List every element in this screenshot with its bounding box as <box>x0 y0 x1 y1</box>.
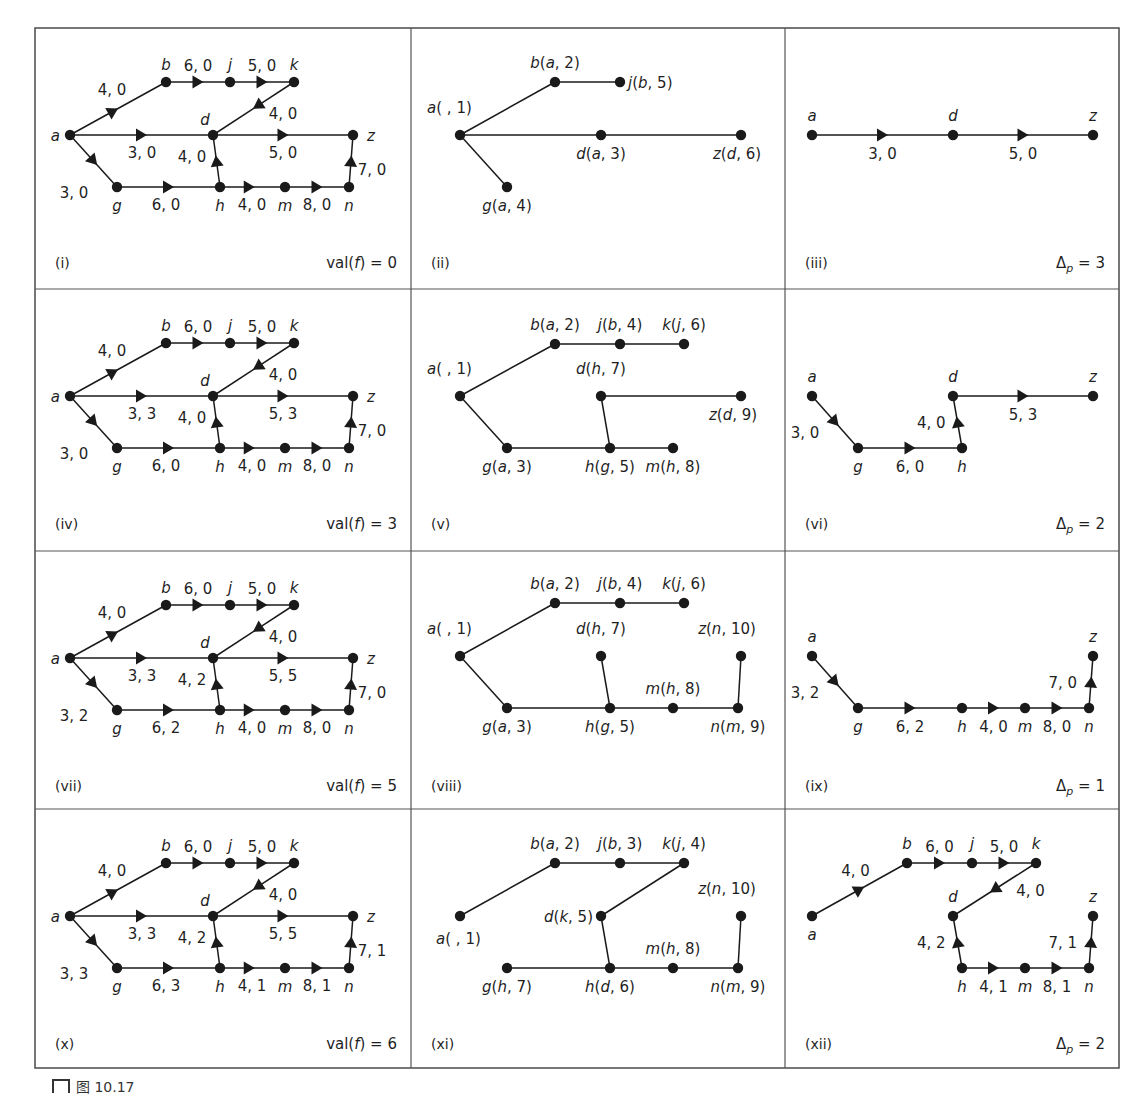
edge-line <box>460 82 555 135</box>
edge-line <box>460 344 555 396</box>
delta-p: Δp = 1 <box>1056 777 1105 798</box>
edge-line <box>738 916 741 968</box>
vertex-dot <box>280 182 290 192</box>
edge-label-hm: 4, 0 <box>238 457 267 475</box>
vertex-label-m: m <box>278 978 293 996</box>
vertex-dot <box>348 653 358 663</box>
vertex-dot <box>65 130 75 140</box>
vertex-dot <box>112 182 122 192</box>
vertex-dot <box>280 443 290 453</box>
edge-label-mn: 8, 1 <box>303 977 332 995</box>
vertex-label: z(d, 6) <box>712 145 761 163</box>
vertex-dot <box>948 911 958 921</box>
edge-label-gh: 6, 2 <box>152 719 181 737</box>
arrowhead-icon <box>278 652 289 665</box>
edge-label-ag: 3, 0 <box>791 424 820 442</box>
arrowhead-icon <box>344 679 357 690</box>
vertex-label: h(g, 5) <box>585 458 635 476</box>
arrowhead-icon <box>278 129 289 142</box>
vertex-dot <box>957 703 967 713</box>
edge-label-ad: 3, 0 <box>868 145 897 163</box>
arrowhead-icon <box>193 857 204 870</box>
edge-label-ab: 4, 0 <box>98 862 127 880</box>
edge-label-jk: 5, 0 <box>248 838 277 856</box>
vertex-label-g: g <box>112 458 122 476</box>
vertex-dot <box>215 182 225 192</box>
edge-label-jk: 5, 0 <box>248 580 277 598</box>
arrowhead-icon <box>988 702 999 715</box>
vertex-dot <box>1031 858 1041 868</box>
vertex-label: a( , 1) <box>427 620 472 638</box>
vertex-label: h(g, 5) <box>585 718 635 736</box>
edge-label-hm: 4, 0 <box>979 718 1008 736</box>
edge-label-hm: 4, 1 <box>979 978 1008 996</box>
arrowhead-icon <box>136 129 147 142</box>
vertex-label: j(b, 5) <box>626 74 673 92</box>
panel-id: (viii) <box>431 778 462 794</box>
arrowhead-icon <box>1084 937 1097 948</box>
panel-id: (vi) <box>805 516 828 532</box>
arrowhead-icon <box>253 358 266 369</box>
edge-label-hd: 4, 2 <box>178 929 207 947</box>
arrowhead-icon <box>1052 702 1063 715</box>
edge-label-bj: 6, 0 <box>184 57 213 75</box>
panel-id: (x) <box>55 1036 74 1052</box>
vertex-label-a: a <box>51 908 60 926</box>
vertex-dot <box>736 651 746 661</box>
vertex-dot <box>550 339 560 349</box>
vertex-dot <box>733 963 743 973</box>
arrowhead-icon <box>244 962 255 975</box>
edge-label-ag: 3, 0 <box>60 184 89 202</box>
vertex-dot <box>736 911 746 921</box>
vertex-dot <box>289 858 299 868</box>
flow-value: val(f) = 6 <box>326 1035 397 1053</box>
arrowhead-icon <box>344 156 357 167</box>
vertex-dot <box>668 443 678 453</box>
edge-label-nz: 7, 1 <box>358 942 387 960</box>
vertex-label-k: k <box>290 837 300 855</box>
arrowhead-icon <box>999 857 1010 870</box>
arrowhead-icon <box>344 417 357 428</box>
vertex-dot <box>1020 963 1030 973</box>
vertex-dot <box>615 858 625 868</box>
arrowhead-icon <box>988 962 999 975</box>
vertex-dot <box>1088 651 1098 661</box>
delta-p: Δp = 2 <box>1056 1035 1105 1056</box>
edge-label-dz: 5, 3 <box>269 405 298 423</box>
vertex-label: m(h, 8) <box>646 680 701 698</box>
vertex-label-k: k <box>290 579 300 597</box>
vertex-label: g(a, 3) <box>482 458 532 476</box>
panel-id: (vii) <box>55 778 82 794</box>
vertex-label: g(a, 3) <box>482 718 532 736</box>
vertex-label: a( , 1) <box>427 360 472 378</box>
edge-label-kd: 4, 0 <box>1016 882 1045 900</box>
vertex-dot <box>1084 703 1094 713</box>
vertex-label-b: b <box>161 56 171 74</box>
panel-ii: a( , 1)b(a, 2)j(b, 5)d(a, 3)z(d, 6)g(a, … <box>427 54 761 271</box>
edge-label-nz: 7, 0 <box>358 684 387 702</box>
edge-label-ag: 3, 2 <box>791 684 820 702</box>
panel-id: (xi) <box>431 1036 454 1052</box>
panels: abjkdzghmn4, 06, 05, 04, 03, 05, 03, 06,… <box>51 54 1105 1056</box>
vertex-label-j: j <box>968 835 975 853</box>
vertex-label-m: m <box>278 458 293 476</box>
arrowhead-icon <box>952 417 965 429</box>
vertex-dot <box>208 653 218 663</box>
edge-label-hd: 4, 0 <box>178 148 207 166</box>
arrowhead-icon <box>253 620 266 631</box>
edge-label-hd: 4, 0 <box>178 409 207 427</box>
vertex-label: d(h, 7) <box>576 620 626 638</box>
vertex-label: j(b, 4) <box>596 575 643 593</box>
edge-label-bj: 6, 0 <box>925 838 954 856</box>
vertex-dot <box>596 911 606 921</box>
vertex-dot <box>605 703 615 713</box>
vertex-label-d: d <box>200 634 210 652</box>
edge-label-ab: 4, 0 <box>98 81 127 99</box>
edge-label-nz: 7, 0 <box>358 422 387 440</box>
arrowhead-icon <box>990 881 1003 892</box>
vertex-label-z: z <box>1088 888 1098 906</box>
vertex-label-n: n <box>344 197 354 215</box>
panel-id: (iii) <box>805 255 828 271</box>
flow-diagram-grid: abjkdzghmn4, 06, 05, 04, 03, 05, 03, 06,… <box>0 0 1148 1094</box>
vertex-dot <box>65 391 75 401</box>
